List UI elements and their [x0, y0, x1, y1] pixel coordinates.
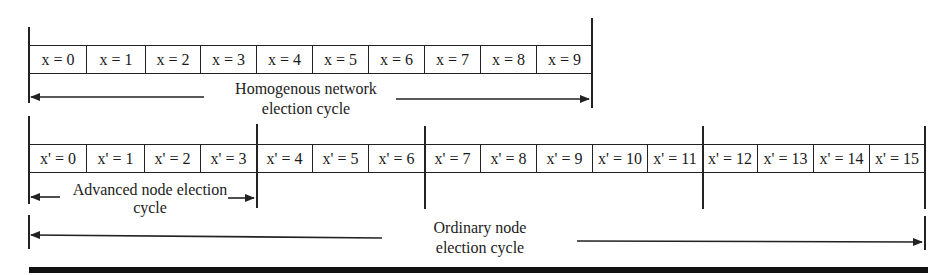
bottom-rule — [29, 267, 928, 273]
cycle-arrows — [0, 0, 952, 275]
ordinary-right-arrow — [577, 241, 922, 242]
ordinary-left-arrow — [31, 235, 382, 238]
